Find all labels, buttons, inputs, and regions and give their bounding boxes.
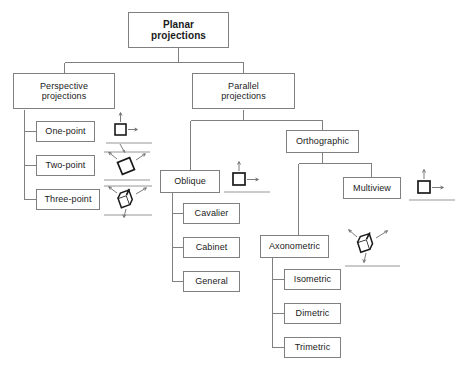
node-label: One-point: [45, 126, 85, 136]
node-three-point[interactable]: Three-point: [36, 189, 100, 210]
diagram-canvas: Planar projections Perspective projectio…: [0, 0, 458, 369]
node-label: Three-point: [44, 194, 91, 204]
node-two-point[interactable]: Two-point: [36, 155, 95, 176]
node-label-line1: Perspective: [40, 81, 88, 91]
node-label: Oblique: [174, 176, 206, 186]
node-label: Orthographic: [296, 136, 349, 146]
node-label: Trimetric: [295, 342, 331, 352]
node-label: General: [195, 276, 228, 286]
three-point-cube-icon: [104, 186, 152, 218]
node-label: Axonometric: [269, 241, 320, 251]
node-general[interactable]: General: [183, 271, 240, 292]
node-cavalier[interactable]: Cavalier: [183, 203, 240, 224]
node-one-point[interactable]: One-point: [36, 121, 95, 142]
node-oblique[interactable]: Oblique: [160, 170, 220, 193]
node-label-line2: projections: [151, 30, 206, 42]
node-trimetric[interactable]: Trimetric: [284, 337, 341, 358]
node-label-line2: projections: [221, 91, 266, 101]
node-axonometric[interactable]: Axonometric: [260, 235, 329, 258]
node-perspective-projections[interactable]: Perspective projections: [13, 73, 115, 109]
node-planar-projections[interactable]: Planar projections: [128, 12, 229, 48]
oblique-cube-icon: [224, 162, 270, 193]
node-label: Two-point: [46, 160, 86, 170]
node-label: Cavalier: [195, 208, 229, 218]
multiview-cube-icon: [409, 170, 455, 201]
node-cabinet[interactable]: Cabinet: [183, 237, 240, 258]
node-label: Dimetric: [296, 308, 330, 318]
node-isometric[interactable]: Isometric: [284, 269, 341, 290]
node-label: Multiview: [353, 183, 391, 193]
node-label-line1: Planar: [163, 19, 194, 31]
node-label: Isometric: [294, 274, 331, 284]
node-label-line2: projections: [42, 91, 87, 101]
node-orthographic[interactable]: Orthographic: [286, 130, 359, 153]
two-point-cube-icon: [104, 152, 150, 180]
node-parallel-projections[interactable]: Parallel projections: [192, 73, 295, 109]
node-dimetric[interactable]: Dimetric: [284, 303, 341, 324]
node-label: Cabinet: [196, 242, 228, 252]
node-multiview[interactable]: Multiview: [343, 177, 401, 199]
axonometric-cube-icon: [345, 230, 400, 266]
one-point-cube-icon: [106, 113, 152, 153]
node-label-line1: Parallel: [228, 81, 259, 91]
